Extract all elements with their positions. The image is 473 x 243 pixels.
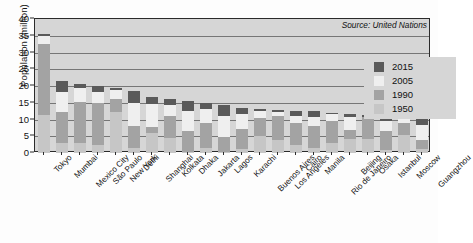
bar-segment-2005 [200, 109, 211, 123]
bar-segment-1950 [344, 139, 355, 153]
bar-segment-2005 [218, 116, 229, 137]
bar-segment-2005 [128, 103, 139, 126]
bar-segment-2015 [272, 110, 283, 112]
bar-segment-2015 [236, 108, 247, 114]
bar-group [326, 19, 337, 151]
bar-segment-2015 [164, 99, 175, 105]
y-axis-tick-label: 0 [24, 147, 29, 158]
bar-group [290, 19, 301, 151]
bar-segment-2015 [56, 81, 67, 92]
legend-label: 2015 [392, 61, 413, 72]
legend-item[interactable]: 2005 [364, 74, 456, 88]
bar-group [200, 19, 211, 151]
bar-segment-1950 [398, 135, 409, 153]
bar-segment-1990 [110, 99, 121, 112]
bar-group [92, 19, 103, 151]
bar-segment-1990 [146, 127, 157, 133]
bar-segment-2015 [74, 84, 85, 88]
bar-segment-2005 [308, 117, 319, 126]
bar-segment-2015 [182, 101, 193, 112]
bar-segment-2015 [344, 114, 355, 117]
bar-segment-2015 [128, 91, 139, 103]
bar-group [56, 19, 67, 151]
bar-group [74, 19, 85, 151]
y-axis-tick-labels: 0510152025303540 [0, 18, 34, 152]
bar-segment-1990 [92, 103, 103, 145]
bar-segment-2015 [38, 34, 49, 36]
bar-segment-1990 [362, 116, 373, 139]
y-axis-tick-label: 40 [18, 13, 29, 24]
bar-group [218, 19, 229, 151]
bar-group [38, 19, 49, 151]
legend-swatch [374, 76, 384, 86]
bar-group [254, 19, 265, 151]
bar-segment-2005 [344, 117, 355, 130]
bar-segment-1950 [146, 133, 157, 153]
bar-segment-2015 [218, 105, 229, 116]
legend-swatch [374, 90, 384, 100]
x-axis-label: Mumbai [73, 153, 100, 180]
legend-label: 1990 [392, 89, 413, 100]
legend-swatch [374, 62, 384, 72]
y-axis-tick-label: 20 [18, 80, 29, 91]
bar-segment-2005 [236, 114, 247, 129]
bar-segment-2015 [200, 103, 211, 109]
y-axis-tick-label: 30 [18, 46, 29, 57]
legend-label: 1950 [392, 103, 413, 114]
bar-segment-2005 [254, 111, 265, 118]
y-axis-tick-label: 5 [24, 130, 29, 141]
bar-segment-1990 [218, 137, 229, 152]
bar-group [308, 19, 319, 151]
bar-segment-1990 [398, 123, 409, 135]
bar-segment-1990 [254, 118, 265, 136]
legend-swatch [374, 104, 384, 114]
bar-segment-2005 [38, 36, 49, 44]
x-axis-label: Tokyo [52, 153, 73, 174]
y-axis-tick-label: 35 [18, 29, 29, 40]
bar-segment-2015 [110, 88, 121, 90]
bar-segment-2015 [326, 113, 337, 115]
legend-label: 2005 [392, 75, 413, 86]
bar-segment-1990 [56, 112, 67, 143]
bar-group [182, 19, 193, 151]
bar-group [110, 19, 121, 151]
bar-segment-2015 [254, 109, 265, 111]
bar-group [344, 19, 355, 151]
bar-segment-2015 [146, 97, 157, 104]
bar-segment-1990 [128, 126, 139, 149]
bar-segment-2005 [290, 116, 301, 123]
bar-group [146, 19, 157, 151]
bar-segment-1950 [272, 140, 283, 153]
bar-segment-1990 [38, 44, 49, 115]
x-axis-label: Karachi [252, 153, 278, 179]
legend-item[interactable]: 2015 [364, 60, 456, 74]
bar-segment-1990 [164, 116, 175, 137]
bar-segment-1990 [416, 140, 427, 149]
bar-segment-1990 [308, 126, 319, 148]
bar-segment-1990 [380, 131, 391, 149]
bar-segment-1990 [200, 123, 211, 148]
bar-segment-1990 [290, 123, 301, 145]
bar-segment-2005 [326, 114, 337, 120]
bar-segment-2015 [308, 111, 319, 117]
y-axis-tick-label: 25 [18, 63, 29, 74]
bar-segment-2005 [92, 92, 103, 104]
plot-area: 2015200519901950 [34, 18, 430, 152]
x-axis-label: Delhi [141, 153, 161, 173]
bar-segment-2005 [74, 88, 85, 102]
bar-segment-1990 [236, 129, 247, 149]
bar-segment-1990 [326, 121, 337, 143]
bar-segment-2005 [146, 104, 157, 126]
bar-group [128, 19, 139, 151]
legend-item[interactable]: 1990 [364, 88, 456, 102]
bar-segment-1950 [362, 139, 373, 153]
y-axis-tick-label: 10 [18, 113, 29, 124]
bar-segment-1990 [344, 130, 355, 138]
bar-segment-1990 [74, 102, 85, 143]
y-axis-tick-label: 15 [18, 96, 29, 107]
bar-segment-2005 [164, 105, 175, 116]
legend-item[interactable]: 1950 [364, 102, 456, 116]
bar-group [272, 19, 283, 151]
x-axis-category-labels: TokyoMumbaiMexico CitySão PauloNew YorkD… [34, 153, 430, 243]
